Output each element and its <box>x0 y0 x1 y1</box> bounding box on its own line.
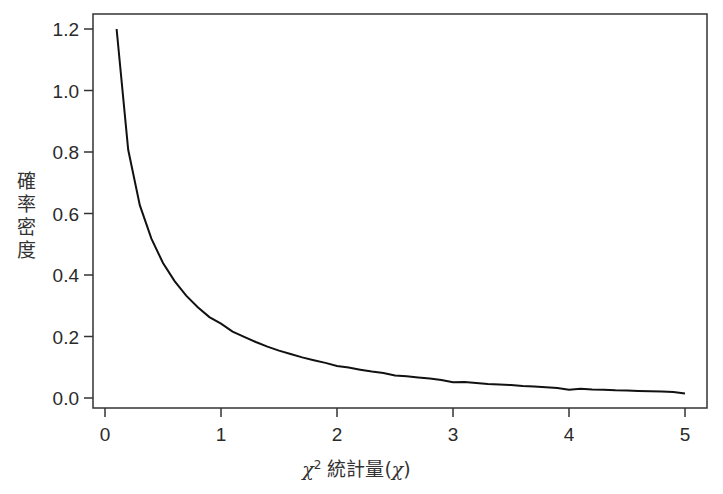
y-tick-label: 0.2 <box>53 327 79 348</box>
y-label-char: 率 <box>14 193 38 216</box>
y-tick-label: 0.4 <box>53 265 80 286</box>
y-tick-label: 0.0 <box>53 388 79 409</box>
y-label-char: 度 <box>14 239 38 262</box>
x-label-text: 統計量( <box>321 458 391 480</box>
plot-frame <box>93 14 707 408</box>
y-label-char: 確 <box>14 170 38 193</box>
chi-symbol: χ <box>392 458 404 480</box>
y-label-char: 密 <box>14 216 38 239</box>
x-label-close: ) <box>403 458 410 480</box>
x-tick-label: 0 <box>100 424 111 445</box>
x-tick-label: 4 <box>564 424 575 445</box>
y-tick-label: 1.0 <box>53 81 79 102</box>
y-tick-label: 1.2 <box>53 19 79 40</box>
y-tick-label: 0.6 <box>53 204 79 225</box>
chart-canvas: 0.00.20.40.60.81.01.2 012345 <box>0 0 723 494</box>
x-tick-label: 1 <box>216 424 227 445</box>
y-tick-label: 0.8 <box>53 142 79 163</box>
x-tick-label: 5 <box>680 424 691 445</box>
x-axis: 012345 <box>100 408 691 445</box>
x-axis-label: χ2 統計量(χ) <box>0 454 723 481</box>
density-curve <box>117 29 685 393</box>
chi-symbol: χ <box>302 458 314 480</box>
x-tick-label: 2 <box>332 424 343 445</box>
y-axis-label: 確 率 密 度 <box>14 170 38 262</box>
y-axis: 0.00.20.40.60.81.01.2 <box>53 19 93 409</box>
x-tick-label: 3 <box>448 424 459 445</box>
